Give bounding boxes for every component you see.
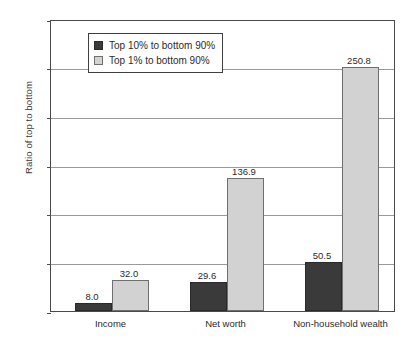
legend-swatch-icon <box>94 41 103 50</box>
bar <box>342 67 379 311</box>
legend-item-label: Top 10% to bottom 90% <box>109 40 215 51</box>
bar-value-label: 250.8 <box>347 55 371 66</box>
legend-swatch-icon <box>94 56 103 65</box>
x-axis-tick-label: Non-household wealth <box>293 318 388 329</box>
legend-item: Top 1% to bottom 90% <box>94 53 215 68</box>
bar-value-label: 50.5 <box>313 250 332 261</box>
bar-value-label: 32.0 <box>120 268 139 279</box>
bar-value-label: 29.6 <box>198 270 217 281</box>
y-axis-tick-mark <box>47 264 51 265</box>
bar <box>112 280 149 311</box>
chart-legend: Top 10% to bottom 90% Top 1% to bottom 9… <box>88 33 223 73</box>
x-axis-tick-label: Income <box>95 318 126 329</box>
bar-value-label: 8.0 <box>85 291 98 302</box>
y-axis-tick-mark <box>47 69 51 70</box>
y-axis-title: Ratio of top to bottom <box>23 48 34 208</box>
bar-value-label: 136.9 <box>232 166 256 177</box>
y-axis-tick-mark <box>47 313 51 314</box>
bar <box>227 178 264 311</box>
legend-item: Top 10% to bottom 90% <box>94 38 215 53</box>
y-axis-tick-mark <box>47 21 51 22</box>
bar <box>75 303 112 311</box>
bar-chart-figure: Ratio of top to bottom Top 10% to bottom… <box>0 0 411 347</box>
legend-item-label: Top 1% to bottom 90% <box>109 55 210 66</box>
bar <box>190 282 227 311</box>
y-axis-tick-mark <box>47 167 51 168</box>
x-axis-tick-label: Net worth <box>205 318 246 329</box>
bar <box>305 262 342 311</box>
y-axis-tick-mark <box>47 215 51 216</box>
y-axis-tick-mark <box>47 118 51 119</box>
